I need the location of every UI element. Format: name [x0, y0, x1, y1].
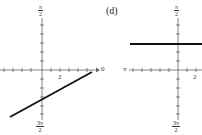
right-top-den: 2 [174, 11, 179, 17]
left-tick-label: 2 [58, 74, 62, 81]
right-tick-label: 2 [193, 74, 197, 81]
right-top-label: π 2 [174, 4, 179, 17]
right-axis-start-label: π [123, 66, 127, 73]
left-top-num: π [38, 4, 43, 11]
right-bottom-den: 2 [172, 127, 180, 133]
left-axis-end-label: 0 [101, 66, 105, 73]
left-bottom-den: 2 [36, 127, 44, 133]
left-bottom-num: 3π [36, 120, 44, 127]
left-axis-arrow-icon [96, 68, 100, 73]
right-bottom-label: 3π 2 [172, 120, 180, 133]
right-bottom-num: 3π [172, 120, 180, 127]
left-curve [10, 72, 92, 117]
right-plot-axes [129, 18, 202, 120]
left-top-label: π 2 [38, 4, 43, 17]
left-plot-axes [0, 18, 96, 120]
left-top-den: 2 [38, 11, 43, 17]
panel-label-d: (d) [106, 5, 118, 16]
right-top-num: π [174, 4, 179, 11]
left-bottom-label: 3π 2 [36, 120, 44, 133]
